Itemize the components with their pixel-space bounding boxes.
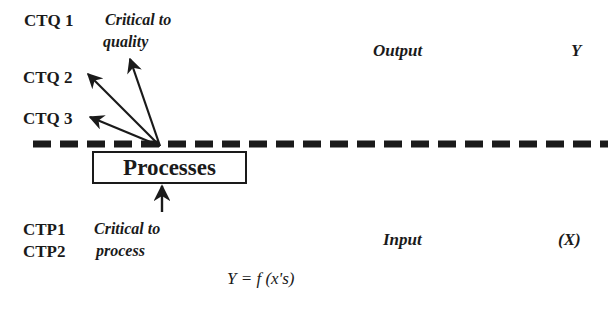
arrow-to-ctq2 (88, 74, 160, 146)
critical-to-quality-line2: quality (103, 34, 148, 50)
ctq-3-label: CTQ 3 (23, 110, 73, 127)
processes-box: Processes (92, 151, 247, 184)
critical-to-process-line2: process (96, 243, 145, 259)
arrow-to-quality (130, 59, 160, 146)
output-variable-y: Y (571, 42, 581, 59)
input-label: Input (383, 231, 422, 248)
ctp-2-label: CTP2 (23, 243, 66, 260)
ctp-1-label: CTP1 (23, 221, 66, 238)
critical-to-process-line1: Critical to (94, 221, 160, 237)
formula-y-equals-f-of-x: Y = f (x's) (227, 270, 295, 287)
ctq-2-label: CTQ 2 (23, 69, 73, 86)
output-label: Output (373, 42, 422, 59)
critical-to-quality-line1: Critical to (105, 12, 171, 28)
processes-label: Processes (123, 155, 216, 181)
input-variable-x: (X) (558, 231, 581, 248)
ctq-1-label: CTQ 1 (24, 12, 74, 29)
